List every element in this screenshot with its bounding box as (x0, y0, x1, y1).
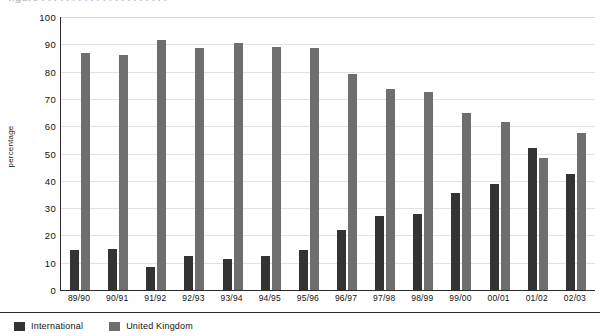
y-tick-label: 0 (4, 285, 56, 296)
y-tick-label: 20 (4, 230, 56, 241)
x-tick-label: 00/01 (488, 293, 510, 303)
bar-united-kingdom[interactable] (310, 48, 319, 290)
chart-legend: InternationalUnited Kingdom (14, 319, 219, 333)
bar-international[interactable] (184, 256, 193, 290)
legend-item-international[interactable]: International (14, 321, 83, 331)
bar-international[interactable] (490, 184, 499, 290)
x-tick-label: 99/00 (449, 293, 471, 303)
bar-group (557, 17, 595, 290)
bar-international[interactable] (70, 250, 79, 290)
bottom-divider (0, 312, 600, 313)
bar-united-kingdom[interactable] (386, 89, 395, 290)
bar-series-container (61, 17, 595, 290)
y-tick-label: 30 (4, 203, 56, 214)
bar-international[interactable] (566, 174, 575, 290)
y-axis-tick-labels: 0102030405060708090100 (0, 0, 56, 336)
bar-group (175, 17, 213, 290)
legend-label: International (31, 321, 83, 331)
bar-united-kingdom[interactable] (577, 133, 586, 290)
y-tick-label: 90 (4, 39, 56, 50)
x-tick-label: 95/96 (297, 293, 319, 303)
x-tick-label: 94/95 (259, 293, 281, 303)
bar-united-kingdom[interactable] (119, 55, 128, 290)
y-tick-label: 10 (4, 257, 56, 268)
bar-united-kingdom[interactable] (348, 74, 357, 290)
bar-united-kingdom[interactable] (539, 158, 548, 290)
bar-united-kingdom[interactable] (501, 122, 510, 290)
bar-international[interactable] (337, 230, 346, 290)
bar-united-kingdom[interactable] (157, 40, 166, 290)
legend-swatch-icon (109, 322, 120, 331)
bar-international[interactable] (108, 249, 117, 290)
bar-group (442, 17, 480, 290)
bar-group (99, 17, 137, 290)
bar-united-kingdom[interactable] (81, 53, 90, 291)
bar-group (519, 17, 557, 290)
bar-united-kingdom[interactable] (234, 43, 243, 290)
plot-area (60, 17, 595, 291)
legend-label: United Kingdom (126, 321, 193, 331)
bar-united-kingdom[interactable] (195, 48, 204, 290)
bar-united-kingdom[interactable] (424, 92, 433, 290)
bar-group (137, 17, 175, 290)
y-tick-label: 100 (4, 12, 56, 23)
bar-group (252, 17, 290, 290)
bar-international[interactable] (375, 216, 384, 290)
bar-group (214, 17, 252, 290)
x-tick-label: 90/91 (106, 293, 128, 303)
y-tick-label: 70 (4, 93, 56, 104)
bar-group (404, 17, 442, 290)
bar-chart-figure: percentage 0102030405060708090100 89/909… (0, 0, 600, 336)
bar-international[interactable] (223, 259, 232, 290)
y-tick-label: 60 (4, 121, 56, 132)
bar-international[interactable] (146, 267, 155, 290)
y-tick-label: 40 (4, 175, 56, 186)
bar-international[interactable] (528, 148, 537, 290)
legend-item-united-kingdom[interactable]: United Kingdom (109, 321, 193, 331)
bar-group (328, 17, 366, 290)
x-tick-label: 96/97 (335, 293, 357, 303)
x-tick-label: 01/02 (526, 293, 548, 303)
x-tick-label: 91/92 (144, 293, 166, 303)
bar-united-kingdom[interactable] (272, 47, 281, 290)
x-tick-label: 97/98 (373, 293, 395, 303)
x-tick-label: 93/94 (221, 293, 243, 303)
y-tick-label: 80 (4, 66, 56, 77)
bar-group (481, 17, 519, 290)
x-tick-label: 02/03 (564, 293, 586, 303)
bar-international[interactable] (413, 214, 422, 290)
bar-group (366, 17, 404, 290)
bar-group (290, 17, 328, 290)
x-tick-label: 92/93 (182, 293, 204, 303)
x-axis-tick-labels: 89/9090/9191/9292/9393/9494/9595/9696/97… (60, 293, 594, 309)
x-tick-label: 89/90 (68, 293, 90, 303)
bar-international[interactable] (299, 250, 308, 290)
bar-international[interactable] (451, 193, 460, 290)
bar-international[interactable] (261, 256, 270, 290)
bar-group (61, 17, 99, 290)
x-tick-label: 98/99 (411, 293, 433, 303)
legend-swatch-icon (14, 322, 25, 331)
y-tick-label: 50 (4, 148, 56, 159)
bar-united-kingdom[interactable] (462, 113, 471, 290)
